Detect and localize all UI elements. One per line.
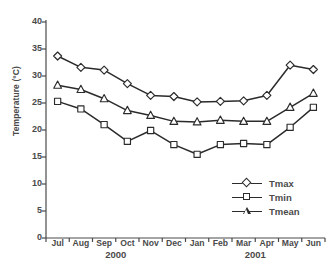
legend-label-tmean: Tmean xyxy=(262,206,300,217)
legend-swatch-triangle-icon xyxy=(232,205,262,217)
legend-label-tmax: Tmax xyxy=(262,178,294,189)
x-axis-group-label: 2001 xyxy=(225,250,285,260)
chart-legend: Tmax Tmin Tmean xyxy=(232,176,328,218)
temperature-line-chart: Temperature (°C) 0510152025303540 JulAug… xyxy=(0,0,333,266)
legend-swatch-square-icon xyxy=(232,191,262,203)
legend-item-tmax: Tmax xyxy=(232,176,328,190)
legend-label-tmin: Tmin xyxy=(262,192,292,203)
x-axis-tick-labels: JulAugSepOctNovDecJanFebMarAprMayJun2000… xyxy=(0,0,333,266)
legend-item-tmin: Tmin xyxy=(232,190,328,204)
legend-swatch-diamond-icon xyxy=(232,177,262,189)
x-axis-group-label: 2000 xyxy=(86,250,146,260)
legend-item-tmean: Tmean xyxy=(232,204,328,218)
x-tick-label: Jun xyxy=(296,239,330,248)
